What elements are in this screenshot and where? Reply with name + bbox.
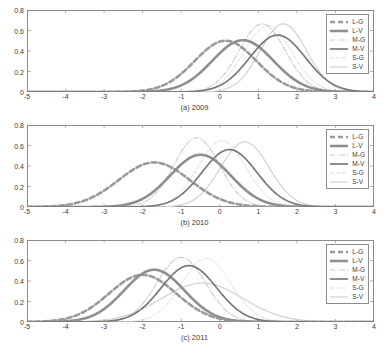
legend-item-s-g: S-G <box>329 283 365 292</box>
legend-label: L-G <box>352 248 363 256</box>
y-axis-labels-a: 0.80.60.40.20 <box>0 0 27 100</box>
x-tick-label: 4 <box>372 208 376 215</box>
x-tick-label: -4 <box>62 323 68 330</box>
legend-label: L-G <box>352 133 363 141</box>
curves-c <box>27 240 374 322</box>
x-tick-label: -2 <box>140 323 146 330</box>
legend-label: S-G <box>352 54 364 62</box>
legend-label: L-V <box>352 27 362 35</box>
legend-item-s-g: S-G <box>329 168 365 177</box>
x-tick-label: 2 <box>295 93 299 100</box>
legend-label: M-V <box>352 45 364 53</box>
legend-line-sample <box>329 169 349 177</box>
legend-item-m-v: M-V <box>329 159 365 168</box>
legend-label: M-V <box>352 160 364 168</box>
legend-label: S-V <box>352 178 363 186</box>
panel-caption-a: (a) 2009 <box>0 103 389 112</box>
legend-line-sample <box>329 18 349 26</box>
legend-label: M-G <box>352 151 365 159</box>
legend-a: L-GL-VM-GM-VS-GS-V <box>326 14 369 74</box>
panel-caption-c: (c) 2011 <box>0 333 389 342</box>
legend-item-m-v: M-V <box>329 44 365 53</box>
panel-2010: 0.80.60.40.20 L-GL-VM-GM-VS-GS-V -5-4-3-… <box>0 115 389 233</box>
legend-label: S-V <box>352 293 363 301</box>
legend-line-sample <box>329 133 349 141</box>
legend-b: L-GL-VM-GM-VS-GS-V <box>326 129 369 189</box>
x-tick-label: -5 <box>24 208 30 215</box>
legend-line-sample <box>329 275 349 283</box>
legend-line-sample <box>329 248 349 256</box>
y-tick-label: 0.4 <box>14 163 24 170</box>
x-tick-label: -1 <box>178 208 184 215</box>
y-tick-label: 0.2 <box>14 183 24 190</box>
legend-line-sample <box>329 266 349 274</box>
x-tick-label: 0 <box>218 93 222 100</box>
legend-line-sample <box>329 63 349 71</box>
legend-line-sample <box>329 36 349 44</box>
panel-caption-b: (b) 2010 <box>0 218 389 227</box>
legend-line-sample <box>329 27 349 35</box>
x-tick-label: 3 <box>333 323 337 330</box>
legend-item-m-g: M-G <box>329 35 365 44</box>
legend-line-sample <box>329 54 349 62</box>
legend-label: M-V <box>352 275 364 283</box>
y-tick-label: 0.6 <box>14 257 24 264</box>
x-tick-label: 1 <box>256 93 260 100</box>
y-axis-labels-b: 0.80.60.40.20 <box>0 115 27 215</box>
series-line-m-g <box>27 257 374 322</box>
series-line-s-g <box>27 258 374 322</box>
curves-b <box>27 125 374 207</box>
legend-label: S-G <box>352 169 364 177</box>
x-tick-label: -5 <box>24 323 30 330</box>
legend-line-sample <box>329 160 349 168</box>
panel-2011: 0.80.60.40.20 L-GL-VM-GM-VS-GS-V -5-4-3-… <box>0 230 389 348</box>
legend-line-sample <box>329 142 349 150</box>
series-line-s-g <box>27 26 374 92</box>
y-axis-labels-c: 0.80.60.40.20 <box>0 230 27 330</box>
x-tick-label: -2 <box>140 93 146 100</box>
y-tick-label: 0.4 <box>14 48 24 55</box>
legend-line-sample <box>329 178 349 186</box>
legend-label: M-G <box>352 36 365 44</box>
legend-line-sample <box>329 293 349 301</box>
y-tick-label: 0.8 <box>14 122 24 129</box>
series-line-m-g <box>27 24 374 92</box>
y-tick-label: 0.8 <box>14 7 24 14</box>
series-line-s-v <box>27 24 374 92</box>
x-tick-label: 4 <box>372 323 376 330</box>
legend-item-s-v: S-V <box>329 177 365 186</box>
plot-area-a: L-GL-VM-GM-VS-GS-V <box>27 10 374 92</box>
legend-label: S-G <box>352 284 364 292</box>
legend-item-m-g: M-G <box>329 265 365 274</box>
y-tick-label: 0.2 <box>14 298 24 305</box>
legend-label: L-G <box>352 18 363 26</box>
x-tick-label: -3 <box>101 323 107 330</box>
legend-item-s-v: S-V <box>329 292 365 301</box>
legend-item-l-g: L-G <box>329 132 365 141</box>
x-tick-label: 1 <box>256 208 260 215</box>
x-tick-label: -1 <box>178 93 184 100</box>
legend-line-sample <box>329 45 349 53</box>
legend-line-sample <box>329 151 349 159</box>
series-line-m-v <box>27 150 374 207</box>
y-tick-label: 0.2 <box>14 68 24 75</box>
x-tick-label: 4 <box>372 93 376 100</box>
x-tick-label: 0 <box>218 323 222 330</box>
legend-item-s-g: S-G <box>329 53 365 62</box>
legend-item-s-v: S-V <box>329 62 365 71</box>
y-tick-label: 0.6 <box>14 142 24 149</box>
plot-area-b: L-GL-VM-GM-VS-GS-V <box>27 125 374 207</box>
legend-label: L-V <box>352 142 362 150</box>
series-line-l-g <box>27 275 374 322</box>
legend-line-sample <box>329 257 349 265</box>
panel-2009: 0.80.60.40.20 L-GL-VM-GM-VS-GS-V -5-4-3-… <box>0 0 389 118</box>
legend-label: L-V <box>352 257 362 265</box>
legend-label: M-G <box>352 266 365 274</box>
legend-c: L-GL-VM-GM-VS-GS-V <box>326 244 369 304</box>
y-tick-label: 0.8 <box>14 237 24 244</box>
x-tick-label: 0 <box>218 208 222 215</box>
curves-a <box>27 10 374 92</box>
legend-line-sample <box>329 284 349 292</box>
series-line-s-v <box>27 283 374 322</box>
legend-item-l-g: L-G <box>329 247 365 256</box>
